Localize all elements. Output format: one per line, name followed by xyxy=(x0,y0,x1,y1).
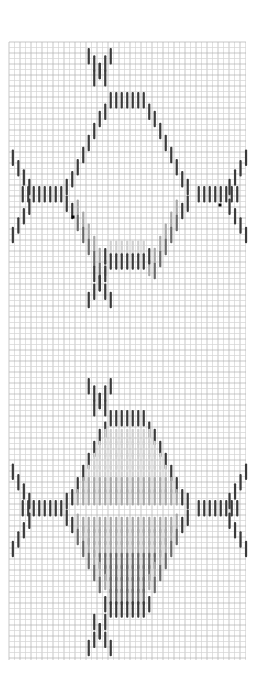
stitch xyxy=(143,601,145,618)
stitch xyxy=(126,601,128,618)
stitch xyxy=(104,283,106,300)
stitch xyxy=(148,248,150,265)
stitch xyxy=(236,186,238,203)
stitch xyxy=(165,538,167,555)
stitch xyxy=(82,489,84,506)
stitch xyxy=(159,251,161,267)
stitch xyxy=(110,640,112,657)
stitch xyxy=(88,489,90,506)
stitch xyxy=(198,500,200,517)
stitch xyxy=(33,500,35,517)
stitch xyxy=(209,500,211,517)
stitch xyxy=(170,147,172,164)
stitch xyxy=(99,63,101,80)
stitch xyxy=(225,186,227,203)
stitch xyxy=(23,522,25,539)
stitch xyxy=(137,410,139,427)
stitch xyxy=(176,489,178,506)
stitch-chart xyxy=(0,0,260,693)
stitch xyxy=(165,553,167,570)
stitch xyxy=(38,500,40,517)
stitch xyxy=(104,55,106,72)
stitch xyxy=(104,385,106,402)
stitch xyxy=(55,500,57,517)
stitch xyxy=(154,111,156,128)
stitch xyxy=(110,601,112,618)
stitch xyxy=(176,215,178,232)
stitch xyxy=(234,522,236,539)
stitch xyxy=(93,614,95,631)
stitch xyxy=(176,159,178,176)
stitch xyxy=(170,541,172,558)
stitch xyxy=(148,103,150,120)
stitch xyxy=(93,400,95,417)
stitch xyxy=(82,227,84,244)
stitch-layer xyxy=(12,48,247,656)
stitch xyxy=(121,410,123,427)
stitch xyxy=(23,483,25,500)
stitch xyxy=(88,640,90,657)
stitch xyxy=(148,489,150,506)
stitch xyxy=(228,199,230,216)
stitch xyxy=(115,92,117,109)
stitch xyxy=(93,266,95,283)
stitch xyxy=(28,513,30,530)
stitch xyxy=(82,147,84,164)
stitch xyxy=(99,111,101,128)
stitch xyxy=(60,500,62,517)
stitch xyxy=(143,253,145,270)
stitch xyxy=(132,253,134,270)
stitch xyxy=(245,149,247,166)
stitch xyxy=(187,509,189,526)
stitch xyxy=(104,631,106,648)
stitch xyxy=(28,199,30,216)
stitch xyxy=(231,500,233,517)
stitch xyxy=(17,474,19,491)
stitch xyxy=(228,493,230,510)
stitch xyxy=(55,186,57,203)
stitch xyxy=(77,514,79,531)
stitch xyxy=(239,531,241,548)
stitch xyxy=(12,463,14,480)
stitch xyxy=(88,239,90,256)
stitch xyxy=(12,149,14,166)
stitch xyxy=(228,513,230,530)
stitch xyxy=(93,55,95,72)
stitch xyxy=(225,500,227,517)
stitch xyxy=(71,489,73,506)
stitch xyxy=(28,493,30,510)
stitch xyxy=(126,410,128,427)
stitch xyxy=(88,553,90,570)
stitch xyxy=(121,253,123,270)
stitch xyxy=(236,500,238,517)
stitch xyxy=(104,574,106,591)
stitch xyxy=(181,203,183,220)
stitch xyxy=(121,601,123,618)
stitch xyxy=(187,195,189,212)
stitch xyxy=(93,631,95,648)
stitch xyxy=(214,500,216,517)
stitch xyxy=(77,489,79,506)
stitch xyxy=(126,92,128,109)
stitch xyxy=(170,227,172,244)
stitch xyxy=(110,378,112,395)
stitch xyxy=(82,212,84,229)
stitch xyxy=(77,200,79,217)
stitch xyxy=(104,596,106,613)
stitch xyxy=(88,135,90,152)
stitch xyxy=(203,500,205,517)
stitch xyxy=(115,253,117,270)
stitch xyxy=(154,248,156,265)
stitch xyxy=(28,179,30,196)
stitch xyxy=(239,474,241,491)
stitch xyxy=(132,601,134,618)
stitch xyxy=(165,489,167,506)
stitch xyxy=(170,489,172,506)
stitch xyxy=(121,489,123,506)
stitch xyxy=(234,483,236,500)
stitch xyxy=(209,186,211,203)
stitch xyxy=(245,463,247,480)
stitch xyxy=(110,92,112,109)
stitch xyxy=(49,186,51,203)
stitch xyxy=(132,92,134,109)
